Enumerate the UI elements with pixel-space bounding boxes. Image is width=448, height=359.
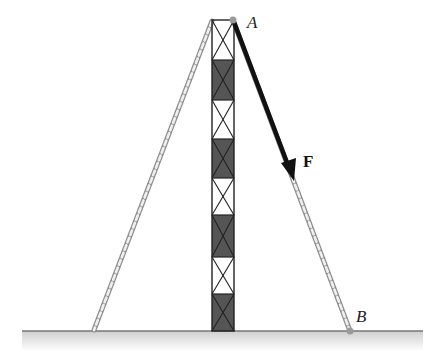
arrowhead-icon	[281, 158, 296, 181]
tower-force-diagram: A F B	[0, 0, 448, 359]
left-rope	[94, 21, 212, 330]
label-point-b: B	[356, 307, 367, 326]
force-arrow	[234, 22, 296, 181]
point-b-marker	[347, 328, 354, 335]
label-force-f: F	[303, 152, 313, 171]
ground-shading	[22, 331, 423, 351]
tower	[212, 20, 234, 331]
label-point-a: A	[246, 13, 258, 32]
point-a-marker	[230, 17, 237, 24]
ground	[22, 331, 423, 351]
